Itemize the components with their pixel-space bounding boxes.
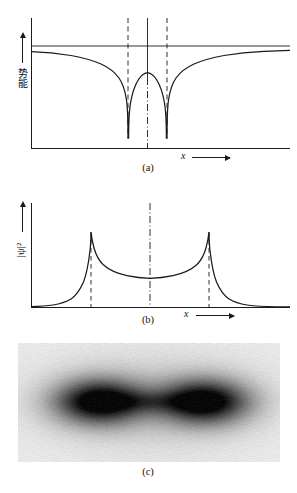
- panel-a-y-arrow: [22, 37, 23, 63]
- panel-b-caption: (b): [128, 314, 168, 325]
- panel-a-plot: [31, 18, 290, 149]
- panel-a: 势能 x (a): [0, 0, 297, 180]
- panel-b-xlabel: x: [184, 308, 188, 319]
- figure-container: 势能 x (a) |ψ|²: [0, 0, 297, 493]
- panel-b-plot: [31, 203, 290, 308]
- panel-b-density-curve: [31, 232, 290, 307]
- panel-a-ylabel: 势能: [15, 68, 29, 88]
- panel-b-ylabel: |ψ|²: [14, 233, 26, 267]
- panel-a-potential-curve: [31, 50, 290, 138]
- panel-c: (c): [0, 330, 297, 493]
- panel-a-xlabel: x: [181, 150, 185, 161]
- panel-c-density-image: [18, 343, 280, 462]
- panel-c-caption: (c): [128, 466, 168, 477]
- panel-b-x-arrow: [196, 315, 234, 316]
- panel-a-x-arrow: [192, 157, 230, 158]
- panel-a-caption: (a): [128, 162, 168, 173]
- panel-b: |ψ|² x (b): [0, 180, 297, 330]
- panel-b-y-arrow: [22, 206, 23, 232]
